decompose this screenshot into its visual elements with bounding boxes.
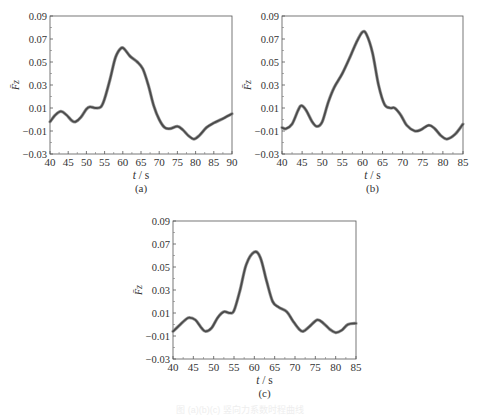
x-tick-label: 45 — [297, 156, 309, 168]
y-tick-label: −0.03 — [146, 354, 170, 365]
figure-caption: 图 (a)(b)(c) 竖向力系数时程曲线 — [0, 403, 480, 415]
x-tick-label: 55 — [337, 156, 349, 168]
x-axis: 40455055606570758085 — [277, 151, 470, 168]
y-tick-label: 0.03 — [29, 80, 47, 91]
y-tick-label: −0.01 — [23, 126, 47, 137]
x-tick-label: 60 — [117, 156, 129, 168]
y-tick-label: 0.07 — [152, 239, 170, 250]
x-tick-label: 80 — [437, 156, 449, 168]
y-axis: −0.03−0.010.010.030.050.070.09 — [23, 11, 53, 160]
chart-b: −0.03−0.010.010.030.050.070.094045505560… — [240, 0, 480, 205]
panel-label: (a) — [135, 182, 148, 195]
y-tick-label: 0.05 — [261, 57, 279, 68]
series-line-halo — [50, 48, 232, 139]
x-axis-label: t / s — [364, 169, 381, 181]
y-tick-label: −0.03 — [255, 149, 279, 160]
chart-c: −0.03−0.010.010.030.050.070.094045505560… — [120, 205, 370, 405]
x-axis-label: t / s — [133, 169, 150, 181]
chart-a: −0.03−0.010.010.030.050.070.094045505560… — [0, 0, 240, 205]
y-axis: −0.03−0.010.010.030.050.070.09 — [255, 11, 285, 160]
y-tick-label: 0.07 — [29, 34, 47, 45]
x-tick-label: 75 — [310, 361, 322, 373]
y-axis: −0.03−0.010.010.030.050.070.09 — [146, 216, 176, 365]
series-line-halo — [282, 31, 463, 139]
y-tick-label: −0.01 — [146, 331, 170, 342]
y-tick-label: 0.03 — [261, 80, 279, 91]
x-tick-label: 55 — [99, 156, 111, 168]
y-tick-label: 0.07 — [261, 34, 279, 45]
x-axis: 40455055606570758085 — [168, 356, 363, 373]
x-tick-label: 85 — [351, 361, 363, 373]
x-tick-label: 70 — [397, 156, 409, 168]
x-tick-label: 85 — [208, 156, 220, 168]
x-tick-label: 80 — [190, 156, 202, 168]
y-tick-label: 0.01 — [29, 103, 47, 114]
x-tick-label: 45 — [63, 156, 75, 168]
y-tick-label: 0.05 — [152, 262, 170, 273]
y-axis-label: F̄z — [133, 285, 144, 296]
x-axis-label: t / s — [256, 374, 273, 386]
x-tick-label: 75 — [417, 156, 429, 168]
y-tick-label: 0.03 — [152, 285, 170, 296]
x-tick-label: 70 — [154, 156, 166, 168]
chart-b-svg: −0.03−0.010.010.030.050.070.094045505560… — [240, 0, 480, 205]
y-tick-label: −0.01 — [255, 126, 279, 137]
x-tick-label: 85 — [458, 156, 470, 168]
x-tick-label: 50 — [208, 361, 220, 373]
x-tick-label: 60 — [249, 361, 260, 373]
x-tick-label: 55 — [229, 361, 241, 373]
x-tick-label: 40 — [277, 156, 289, 168]
series-line — [50, 48, 232, 139]
x-tick-label: 40 — [168, 361, 180, 373]
series-line — [173, 252, 356, 333]
x-tick-label: 50 — [81, 156, 93, 168]
y-tick-label: 0.01 — [261, 103, 279, 114]
series-line-halo — [173, 252, 356, 333]
y-tick-label: 0.05 — [29, 57, 47, 68]
x-tick-label: 80 — [330, 361, 342, 373]
plot-frame — [50, 16, 232, 154]
x-tick-label: 75 — [172, 156, 184, 168]
x-tick-label: 60 — [357, 156, 369, 168]
x-tick-label: 90 — [227, 156, 239, 168]
y-tick-label: 0.01 — [152, 308, 170, 319]
x-axis: 4045505560657075808590 — [45, 151, 239, 168]
x-tick-label: 70 — [290, 361, 302, 373]
panel-label: (c) — [258, 387, 271, 400]
y-axis-label: F̄z — [242, 80, 253, 91]
y-tick-label: 0.09 — [29, 11, 47, 22]
x-tick-label: 50 — [317, 156, 329, 168]
y-axis-label: F̄z — [10, 80, 21, 91]
chart-c-svg: −0.03−0.010.010.030.050.070.094045505560… — [120, 205, 370, 405]
x-tick-label: 45 — [188, 361, 200, 373]
x-tick-label: 65 — [136, 156, 148, 168]
y-tick-label: 0.09 — [261, 11, 279, 22]
x-tick-label: 40 — [45, 156, 57, 168]
y-tick-label: 0.09 — [152, 216, 170, 227]
plot-frame — [173, 221, 356, 359]
chart-a-svg: −0.03−0.010.010.030.050.070.094045505560… — [0, 0, 240, 205]
plot-frame — [282, 16, 463, 154]
x-tick-label: 65 — [377, 156, 389, 168]
panel-label: (b) — [366, 182, 379, 195]
y-tick-label: −0.03 — [23, 149, 47, 160]
x-tick-label: 65 — [269, 361, 281, 373]
